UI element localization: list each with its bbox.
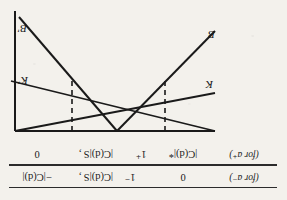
rotated-figure: (for a⁻) 0 |C(d)|S , −|C(d)| 1⁻ (for a⁺)… [0, 0, 287, 200]
scale-cell-lower-2: 1⁺ [127, 143, 155, 165]
label-K-prime: K' [18, 75, 28, 87]
scale-cell-lower-4: 0 [9, 143, 65, 165]
scale-side-label-lower: (for a⁺) [211, 143, 277, 165]
line-B [117, 31, 215, 131]
scale-cell-upper-1: 0 [155, 166, 211, 188]
scale-row-upper: (for a⁻) 0 |C(d)|S , −|C(d)| [9, 166, 277, 188]
line-K [15, 93, 215, 131]
label-K: K [206, 79, 213, 91]
graph-area: K K' B B' [9, 8, 277, 143]
label-B-prime: B' [18, 23, 27, 35]
scale-row-lower: (for a⁺) |C(d)|* 1⁺ |C(d)|S , 0 [9, 143, 277, 165]
scale-side-label-upper: (for a⁻) [211, 166, 277, 188]
line-B-prime [19, 17, 117, 131]
label-B: B [208, 29, 215, 41]
line-K-prime [11, 81, 215, 131]
scale-cell-lower-3: |C(d)|S , [65, 143, 127, 165]
scale-cell-lower-1: |C(d)|* [155, 143, 211, 165]
scale-cell-upper-4: −|C(d)| [9, 166, 65, 188]
scale-header: (for a⁻) 0 |C(d)|S , −|C(d)| 1⁻ (for a⁺)… [9, 143, 277, 188]
scale-tick-one-minus: 1⁻ [117, 166, 143, 188]
graph-svg [9, 8, 277, 143]
